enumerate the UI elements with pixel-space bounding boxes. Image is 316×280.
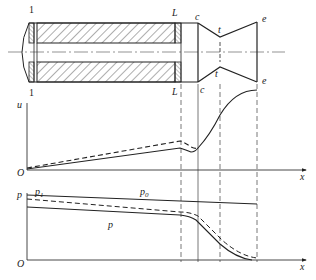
p-plot-x-label: x [299,261,305,272]
label-p0: p0 [139,186,149,199]
grain-upper [37,23,175,43]
head-inhibitor-upper [29,23,34,43]
grain-lower [37,62,175,82]
aft-inhibitor-upper [175,23,181,43]
head-inhibitor-lower [29,62,34,82]
nozzle-lower [198,67,257,82]
velocity-plot: u O x [17,90,306,182]
aft-inhibitor-lower [175,62,181,82]
label-p1: p1 [34,186,44,199]
p-curve-solid [27,207,252,260]
label-L-bottom: L [171,86,178,97]
label-e-top: e [262,13,267,24]
u-curve-dashed [27,141,198,168]
label-c-top: c [195,11,200,22]
u-curve-solid [27,90,257,169]
nozzle-upper [198,22,257,37]
label-t-top: t [218,24,221,35]
p-axis-label: p [16,189,22,200]
u-axis-label: u [17,99,22,110]
label-section-1-bottom: 1 [29,87,34,98]
label-c-bottom: c [200,84,205,95]
label-section-1-top: 1 [29,4,34,15]
u-plot-x-label: x [299,171,305,182]
motor-schematic: 1 1 L L c c t t e e [8,4,285,98]
p-curve-dashed [27,199,257,258]
p-plot-origin: O [17,258,24,269]
section-guides [181,84,257,262]
label-p: p [107,219,113,230]
pressure-plot: p O x p1 p0 p [16,186,306,272]
label-e-bottom: e [262,75,267,86]
label-t-bottom: t [215,68,218,79]
rocket-motor-diagram: 1 1 L L c c t t e e u O x p O x [0,0,316,280]
u-plot-origin: O [17,167,24,178]
label-L-top: L [171,7,178,18]
head-dome [22,23,29,82]
